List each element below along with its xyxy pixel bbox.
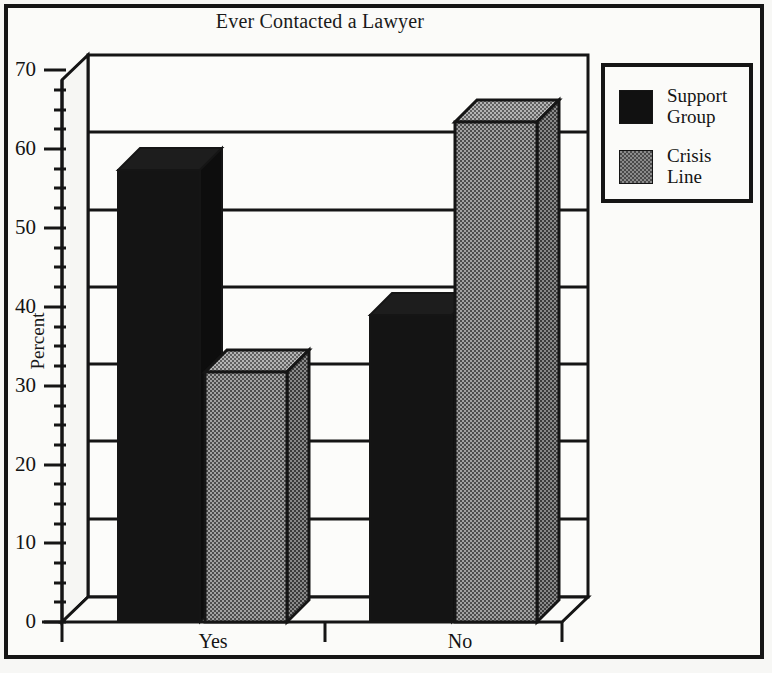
bar-no-crisis-line	[455, 100, 559, 622]
legend-item-crisis-line[interactable]: Crisis Line	[619, 145, 711, 187]
plot-left-wall	[62, 55, 88, 622]
y-tick-label-30: 30	[0, 373, 36, 398]
legend-label-crisis-line-line2: Line	[667, 166, 711, 187]
y-tick-label-40: 40	[0, 294, 36, 319]
legend-label-support-group-line2: Group	[667, 106, 727, 127]
legend-swatch-support-group	[619, 90, 653, 124]
y-tick-label-70: 70	[0, 57, 36, 82]
y-tick-label-10: 10	[0, 530, 36, 555]
x-tick-label-yes: Yes	[143, 630, 283, 653]
y-tick-label-0: 0	[0, 609, 36, 634]
y-tick-label-50: 50	[0, 215, 36, 240]
legend-label-crisis-line: Crisis Line	[667, 145, 711, 187]
legend-label-support-group: Support Group	[667, 85, 727, 127]
y-tick-label-20: 20	[0, 452, 36, 477]
y-tick-label-60: 60	[0, 136, 36, 161]
legend-label-crisis-line-line1: Crisis	[667, 145, 711, 166]
legend-item-support-group[interactable]: Support Group	[619, 85, 727, 127]
legend-label-support-group-line1: Support	[667, 85, 727, 106]
chart-page: Ever Contacted a Lawyer	[0, 0, 772, 673]
x-tick-label-no: No	[390, 630, 530, 653]
legend: Support Group Crisis Line	[601, 63, 753, 203]
legend-swatch-crisis-line	[619, 150, 653, 184]
bar-yes-crisis-line	[205, 350, 309, 622]
